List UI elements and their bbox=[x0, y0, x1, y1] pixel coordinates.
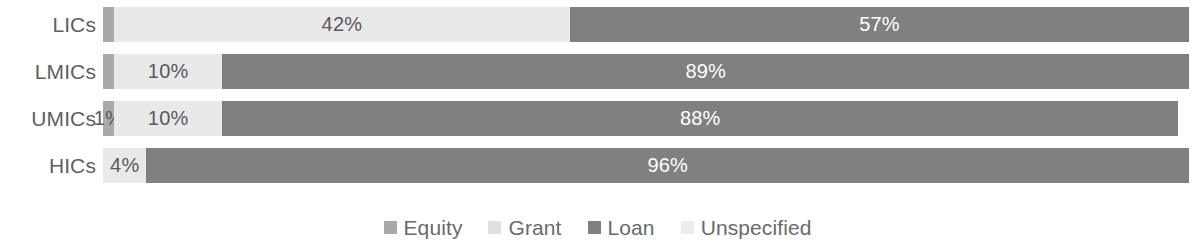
legend-item-grant[interactable]: Grant bbox=[488, 216, 561, 240]
segment-label-hics-grant: 4% bbox=[110, 148, 139, 183]
legend-item-unspecified[interactable]: Unspecified bbox=[681, 216, 812, 240]
chart-legend: Equity Grant Loan Unspecified bbox=[0, 206, 1195, 249]
bar-row-hics: HICs 4% 96% bbox=[0, 148, 1195, 183]
bar-row-umics: UMICs 1% 10% 88% bbox=[0, 101, 1195, 136]
segment-lmics-grant[interactable]: 10% bbox=[114, 54, 223, 89]
legend-swatch-icon-unspecified bbox=[681, 221, 694, 234]
legend-swatch-icon-equity bbox=[384, 221, 397, 234]
segment-umics-equity[interactable]: 1% bbox=[103, 101, 114, 136]
legend-label-loan: Loan bbox=[608, 216, 655, 240]
plot-area: LICs 42% 57% LMICs 10% bbox=[0, 0, 1195, 196]
legend-label-unspecified: Unspecified bbox=[701, 216, 812, 240]
category-label-hics: HICs bbox=[0, 148, 96, 183]
bar-track-umics: 1% 10% 88% bbox=[103, 101, 1189, 136]
bar-track-lmics: 10% 89% bbox=[103, 54, 1189, 89]
segment-hics-grant[interactable]: 4% bbox=[103, 148, 146, 183]
segment-lics-equity[interactable] bbox=[103, 7, 114, 42]
segment-label-umics-grant: 10% bbox=[148, 101, 189, 136]
category-label-lics: LICs bbox=[0, 7, 96, 42]
category-label-lmics: LMICs bbox=[0, 54, 96, 89]
segment-label-lmics-loan: 89% bbox=[685, 54, 726, 89]
bar-track-lics: 42% 57% bbox=[103, 7, 1189, 42]
segment-lmics-loan[interactable]: 89% bbox=[222, 54, 1189, 89]
segment-lmics-equity[interactable] bbox=[103, 54, 114, 89]
segment-label-hics-loan: 96% bbox=[647, 148, 688, 183]
segment-label-lics-grant: 42% bbox=[322, 7, 363, 42]
segment-label-lics-loan: 57% bbox=[859, 7, 900, 42]
segment-hics-loan[interactable]: 96% bbox=[146, 148, 1189, 183]
segment-umics-loan[interactable]: 88% bbox=[222, 101, 1178, 136]
segment-lics-grant[interactable]: 42% bbox=[114, 7, 570, 42]
segment-lics-loan[interactable]: 57% bbox=[570, 7, 1189, 42]
legend-label-equity: Equity bbox=[404, 216, 463, 240]
bar-row-lics: LICs 42% 57% bbox=[0, 7, 1195, 42]
bar-track-hics: 4% 96% bbox=[103, 148, 1189, 183]
legend-item-loan[interactable]: Loan bbox=[588, 216, 655, 240]
legend-swatch-icon-loan bbox=[588, 221, 601, 234]
stacked-bar-chart: LICs 42% 57% LMICs 10% bbox=[0, 0, 1195, 249]
category-label-umics: UMICs bbox=[0, 101, 96, 136]
legend-swatch-icon-grant bbox=[488, 221, 501, 234]
segment-label-lmics-grant: 10% bbox=[148, 54, 189, 89]
segment-label-umics-loan: 88% bbox=[680, 101, 721, 136]
bar-row-lmics: LMICs 10% 89% bbox=[0, 54, 1195, 89]
segment-umics-grant[interactable]: 10% bbox=[114, 101, 223, 136]
legend-label-grant: Grant bbox=[508, 216, 561, 240]
legend-item-equity[interactable]: Equity bbox=[384, 216, 463, 240]
